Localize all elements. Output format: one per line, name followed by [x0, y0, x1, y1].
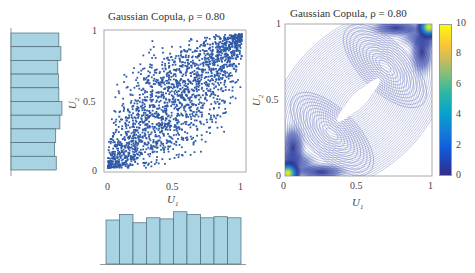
colorbar-tick-10: 10	[456, 17, 466, 28]
histogram-bar	[11, 115, 60, 129]
histogram-bar	[11, 88, 59, 102]
histogram-bar	[120, 215, 134, 265]
scatter-ylabel: U2	[66, 98, 81, 109]
scatter-xtick-1: 1	[238, 181, 243, 192]
histogram-bar	[11, 60, 58, 74]
contour-title: Gaussian Copula, ρ = 0.80	[290, 7, 407, 19]
contour-ytick-05: 0.5	[266, 94, 279, 105]
contour-ylabel: U2	[250, 95, 265, 106]
colorbar-tick-6: 6	[456, 78, 461, 89]
scatter-ytick-1: 1	[92, 25, 97, 36]
colorbar-tick-0: 0	[456, 169, 461, 180]
contour-xtick-1: 1	[428, 180, 433, 191]
histogram-bar	[11, 102, 62, 116]
scatter-xtick-0: 0	[105, 181, 110, 192]
histogram-bar	[11, 156, 56, 170]
histogram-bar	[11, 33, 59, 47]
contour-xtick-0: 0	[281, 180, 286, 191]
histogram-bar	[174, 212, 188, 264]
histogram-bar	[11, 74, 58, 88]
scatter-plot	[104, 30, 246, 172]
colorbar-tick-2: 2	[456, 139, 461, 150]
colorbar	[439, 24, 452, 176]
contour-density-plot	[285, 24, 432, 176]
colorbar-tick-4: 4	[456, 108, 461, 119]
left-marginal-histogram	[0, 0, 70, 190]
contour-xtick-05: 0.5	[350, 180, 363, 191]
scatter-xtick-05: 0.5	[166, 181, 179, 192]
histogram-bar	[147, 218, 161, 264]
histogram-bar	[160, 219, 174, 264]
histogram-bar	[228, 218, 242, 264]
histogram-bar	[106, 220, 120, 264]
scatter-ytick-0: 0	[92, 165, 97, 176]
histogram-bar	[214, 217, 228, 264]
histogram-bar	[187, 215, 201, 265]
histogram-bar	[11, 129, 56, 143]
contour-ytick-1: 1	[276, 18, 281, 29]
contour-xlabel: U1	[352, 196, 363, 211]
histogram-bar	[133, 223, 147, 264]
colorbar-tick-8: 8	[456, 47, 461, 58]
histogram-bar	[201, 218, 215, 264]
histogram-bar	[11, 143, 55, 157]
bottom-marginal-histogram	[100, 205, 250, 270]
scatter-title: Gaussian Copula, ρ = 0.80	[108, 10, 225, 22]
scatter-ytick-05: 0.5	[83, 96, 96, 107]
histogram-bar	[11, 47, 61, 61]
